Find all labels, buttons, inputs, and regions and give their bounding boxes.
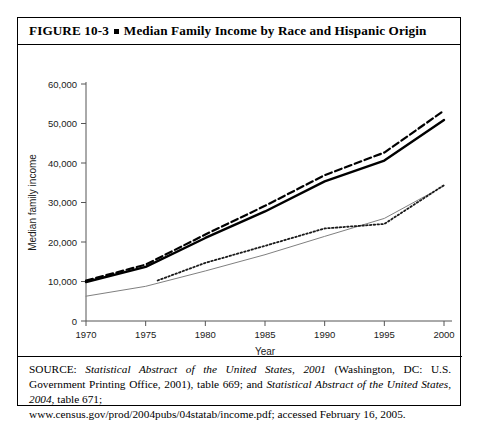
y-tick-label: 20,000 bbox=[48, 237, 77, 248]
x-tick-label: 1990 bbox=[314, 329, 335, 340]
figure-title-text: Median Family Income by Race and Hispani… bbox=[124, 23, 427, 38]
figure-number: FIGURE 10-3 bbox=[29, 23, 109, 38]
y-tick-label: 0 bbox=[72, 316, 77, 327]
x-tick-label: 1980 bbox=[195, 329, 216, 340]
x-tick-label: 2000 bbox=[433, 329, 454, 340]
series-line-african-american bbox=[86, 186, 444, 296]
y-tick-label: 10,000 bbox=[48, 276, 77, 287]
series-line-hispanic bbox=[158, 185, 444, 280]
y-tick-label: 30,000 bbox=[48, 197, 77, 208]
figure-box: FIGURE 10-3Median Family Income by Race … bbox=[17, 17, 461, 406]
chart-plot-area: 010,00020,00030,00040,00050,00060,000197… bbox=[18, 45, 459, 365]
y-axis-title: Median family income bbox=[27, 154, 38, 251]
x-tick-label: 1995 bbox=[374, 329, 395, 340]
series-line-all bbox=[86, 120, 444, 282]
source-work-1: Statistical Abstract of the United State… bbox=[85, 363, 326, 375]
source-line-1: SOURCE: Statistical Abstract of the Unit… bbox=[29, 362, 451, 407]
source-url-line: www.census.gov/prod/2004pubs/04statab/in… bbox=[29, 407, 451, 422]
line-chart-svg: 010,00020,00030,00040,00050,00060,000197… bbox=[18, 45, 459, 365]
x-tick-label: 1975 bbox=[135, 329, 156, 340]
source-prefix: SOURCE: bbox=[29, 363, 77, 375]
x-tick-label: 1985 bbox=[254, 329, 275, 340]
y-tick-label: 40,000 bbox=[48, 158, 77, 169]
source-note: SOURCE: Statistical Abstract of the Unit… bbox=[18, 356, 462, 422]
figure-title-bar: FIGURE 10-3Median Family Income by Race … bbox=[18, 18, 460, 45]
figure-title: FIGURE 10-3Median Family Income by Race … bbox=[29, 23, 427, 39]
x-tick-label: 1970 bbox=[75, 329, 96, 340]
y-tick-label: 50,000 bbox=[48, 118, 77, 129]
y-tick-label: 60,000 bbox=[48, 79, 77, 90]
source-mid-2: , table 671; bbox=[52, 393, 103, 405]
square-bullet-icon bbox=[114, 29, 119, 34]
